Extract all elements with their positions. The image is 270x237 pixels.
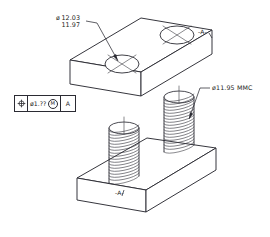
- tolerance-value: ø1.??: [30, 100, 46, 107]
- hole-left: [105, 55, 139, 73]
- diameter-lower-limit: 11.97: [61, 22, 80, 29]
- datum-label-top: -A-: [198, 29, 207, 35]
- position-symbol-icon: [17, 99, 26, 108]
- feature-control-frame[interactable]: ø1.?? M A: [14, 95, 76, 112]
- mmc-modifier-icon: M: [48, 99, 58, 109]
- tolerance-value-cell: ø1.?? M: [28, 96, 61, 111]
- leader-mmc-arrowhead: [189, 112, 193, 119]
- diameter-dimension-text: ø12.0311.97: [56, 15, 80, 29]
- datum-label-bottom: -A-: [115, 190, 124, 196]
- top-plate: [70, 18, 212, 96]
- engineering-drawing-svg: [0, 0, 270, 237]
- position-symbol-cell: [15, 96, 28, 111]
- hole-right: [160, 26, 194, 44]
- mmc-note-text: ø11.95 MMC: [212, 85, 253, 92]
- drawing-canvas: ø12.0311.97 ø11.95 MMC -A- -A- ø1.?? M A: [0, 0, 270, 237]
- diameter-symbol: ø: [56, 14, 60, 21]
- bottom-plate: [77, 138, 216, 212]
- leader-mmc: [189, 88, 210, 119]
- datum-reference-cell: A: [61, 96, 75, 111]
